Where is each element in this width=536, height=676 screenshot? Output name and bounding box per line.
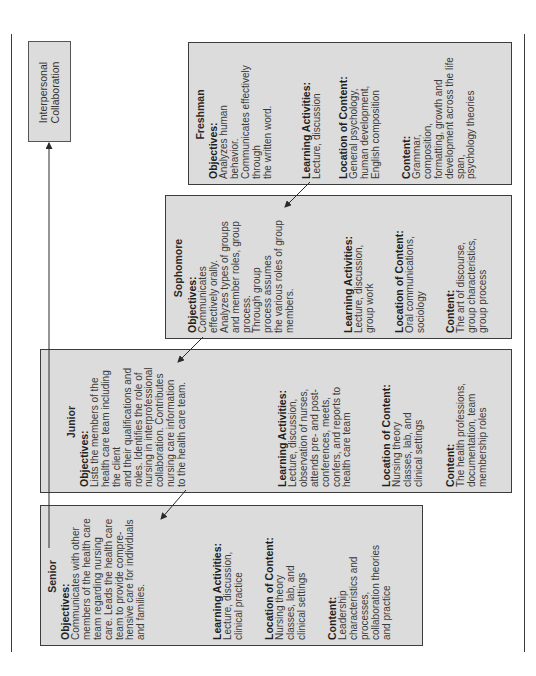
content-line: and practice <box>382 510 393 640</box>
objectives-line: team regarding nursing <box>93 510 104 640</box>
location-line: sociology <box>416 200 427 333</box>
learning-activities-line: conferences, meets, <box>321 354 332 487</box>
learning-activities-section: Learning Activities: Lecture, discussion <box>301 47 323 179</box>
right-page-rule <box>524 34 525 652</box>
objectives-line: and families. <box>136 510 147 640</box>
location-line: clinical settings <box>297 510 308 640</box>
content-section: Content: The health professions, documen… <box>445 354 489 487</box>
objectives-line: care. Leads the health care <box>104 510 115 640</box>
location-of-content-section: Location of Content: General psychology,… <box>338 47 382 179</box>
box-title: Senior <box>46 506 58 647</box>
learning-activities-line: Lecture, discussion <box>312 47 323 179</box>
objectives-section: Objectives: Lists the members of the hea… <box>79 354 188 487</box>
content-section: Content: Grammar, composition, formattin… <box>401 47 477 179</box>
freshman-box: Freshman Objectives: Analyzes human beha… <box>188 42 512 185</box>
objectives-section: Objectives: Analyzes human behavior. Com… <box>208 47 273 179</box>
objectives-line: to the health care team. <box>177 354 188 487</box>
content-section: Content: Leadership characteristics and … <box>327 510 392 640</box>
content-line: processes, <box>360 510 371 640</box>
content-line: group process <box>478 200 489 333</box>
objectives-section: Objectives: Communicates effectively ora… <box>187 200 296 333</box>
learning-activities-section: Learning Activities: Lecture, discussion… <box>212 510 245 640</box>
location-line: clinical settings <box>414 354 425 487</box>
objectives-line: the written word. <box>263 47 274 179</box>
learning-activities-line: health care team <box>342 354 353 487</box>
content-section: Content: The art of discourse, group cha… <box>445 200 489 333</box>
box-title: Sophomore <box>172 196 184 340</box>
objectives-line: the client <box>112 354 123 487</box>
box-title: Junior <box>65 350 77 494</box>
objectives-line: and their qualifications and <box>123 354 134 487</box>
learning-activities-line: attends pre- and post- <box>310 354 321 487</box>
learning-activities-line: group work <box>365 200 376 333</box>
content-line: formatting, growth and <box>434 47 445 179</box>
objectives-line: and member roles, group <box>231 200 242 333</box>
learning-activities-line: clinical practice <box>234 510 245 640</box>
location-of-content-section: Location of Content: Nursing theory clas… <box>381 354 425 487</box>
interpersonal-collaboration-box: Interpersonal Collaboration <box>28 41 71 142</box>
location-line: English composition <box>371 47 382 179</box>
objectives-section: Objectives: Communicates with other memb… <box>60 510 147 640</box>
location-of-content-section: Location of Content: Nursing theory clas… <box>264 510 308 640</box>
content-line: development across the life <box>445 47 456 179</box>
sophomore-box: Sophomore Objectives: Communicates effec… <box>165 195 512 339</box>
left-page-rule <box>11 34 12 652</box>
root-box-line-2: Collaboration <box>49 42 61 143</box>
objectives-line: Communicates effectively <box>241 47 252 179</box>
content-line: membership roles <box>478 354 489 487</box>
objectives-line: members. <box>285 200 296 333</box>
box-title: Freshman <box>194 43 206 186</box>
learning-activities-section: Learning Activities: Lecture, discussion… <box>343 200 376 333</box>
learning-activities-section: Learning Activities: Lecture, discussion… <box>277 354 353 487</box>
senior-box: Senior Objectives: Communicates with oth… <box>40 505 423 646</box>
location-of-content-section: Location of Content: Oral communications… <box>394 200 427 333</box>
objectives-line: through <box>252 47 263 179</box>
root-box-line-1: Interpersonal <box>37 42 49 143</box>
content-line: collaboration theories <box>371 510 382 640</box>
content-line: psychology theories <box>466 47 477 179</box>
junior-box: Junior Objectives: Lists the members of … <box>40 349 512 493</box>
objectives-line: Analyzes types of groups <box>220 200 231 333</box>
